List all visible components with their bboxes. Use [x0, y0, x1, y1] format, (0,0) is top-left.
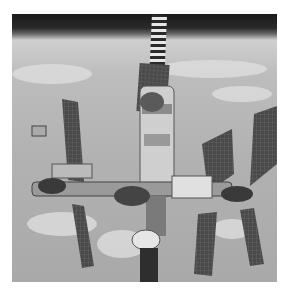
far-right-solar-panel: [250, 106, 277, 186]
left-lower-solar-panel: [72, 204, 94, 268]
station-illustration: [12, 14, 277, 282]
right-lower-solar-panel: [194, 212, 217, 276]
space-station-photo: [12, 14, 277, 282]
